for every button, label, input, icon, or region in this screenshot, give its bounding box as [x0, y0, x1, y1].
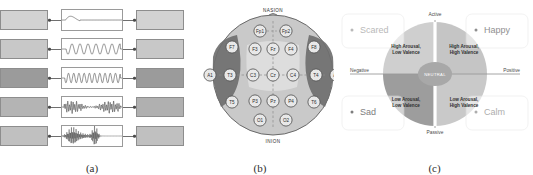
axis-label-bottom: Passive — [427, 130, 444, 135]
connector-right — [123, 97, 136, 117]
electrode-label: C4 — [290, 73, 296, 78]
panel-b-electrode-map: Fp1Fp2F7F3FzF4F8A1T3C3CzC4T4A2T5P3PzP4T6… — [186, 0, 334, 175]
axis-label-top: Active — [428, 12, 441, 17]
electrode-label: Cz — [270, 73, 276, 78]
axis-label-right: Positive — [503, 68, 520, 73]
emotion-bullet — [351, 111, 354, 114]
electrode-label: O2 — [283, 118, 290, 123]
band-label-alpha — [0, 68, 48, 88]
band-row — [0, 95, 184, 119]
electrode-fz[interactable]: Fz — [267, 43, 279, 55]
electrode-label: A1 — [207, 73, 213, 78]
band-label-beta — [0, 97, 48, 117]
electrode-f7[interactable]: F7 — [226, 41, 238, 53]
waveform-beta — [61, 96, 123, 118]
electrode-label: Pz — [270, 99, 276, 104]
inion-label: INION — [266, 139, 281, 144]
waveform-gamma — [61, 125, 123, 147]
electrode-p3[interactable]: P3 — [249, 95, 261, 107]
band-label-gamma — [0, 126, 48, 146]
emotion-label: Sad — [360, 107, 376, 117]
electrode-label: T6 — [311, 100, 317, 105]
quadrant-line: Low Valence — [392, 103, 420, 108]
quadrant-label-top-right: High Arousal,High Valence — [449, 44, 479, 55]
electrode-t6[interactable]: T6 — [308, 96, 320, 108]
head-diagram: Fp1Fp2F7F3FzF4F8A1T3C3CzC4T4A2T5P3PzP4T6… — [186, 2, 334, 152]
state-label-light-sleep — [136, 39, 184, 59]
electrode-f3[interactable]: F3 — [249, 43, 261, 55]
electrode-fp1[interactable]: Fp1 — [254, 25, 266, 37]
panel-c-caption: (c) — [336, 162, 533, 174]
emotion-label: Calm — [484, 107, 505, 117]
quadrant-label-top-left: High Arousal,Low Valence — [391, 44, 421, 55]
electrode-label: P4 — [288, 99, 294, 104]
electrode-c4[interactable]: C4 — [287, 69, 299, 81]
electrode-label: F4 — [288, 47, 294, 52]
waveform-delta — [61, 9, 123, 31]
figure-root: (a) Fp1Fp2F7F3FzF4F8A1T3C3CzC4T4A2T5P3Pz… — [0, 0, 533, 175]
emotion-bullet — [351, 29, 354, 32]
connector-right — [123, 126, 136, 146]
band-label-theta — [0, 39, 48, 59]
electrode-t5[interactable]: T5 — [226, 96, 238, 108]
electrode-label: F8 — [311, 45, 317, 50]
electrode-label: Fz — [270, 47, 276, 52]
electrode-a1[interactable]: A1 — [204, 69, 216, 81]
electrode-label: Fp2 — [282, 29, 290, 34]
electrode-label: F7 — [229, 45, 235, 50]
connector-right — [123, 68, 136, 88]
band-row — [0, 66, 184, 90]
connector-left — [48, 126, 61, 146]
state-label-relaxed — [136, 68, 184, 88]
connector-left — [48, 10, 61, 30]
nasion-label: NASION — [263, 8, 283, 13]
band-row — [0, 37, 184, 61]
quadrant-line: High Valence — [450, 103, 479, 108]
electrode-label: C3 — [250, 73, 256, 78]
band-row — [0, 124, 184, 148]
electrode-label: P3 — [252, 99, 258, 104]
electrode-p4[interactable]: P4 — [285, 95, 297, 107]
panel-a-eeg-bands: (a) — [0, 0, 184, 175]
electrode-o2[interactable]: O2 — [280, 114, 292, 126]
emotion-label: Scared — [360, 25, 389, 35]
electrode-t4[interactable]: T4 — [310, 69, 322, 81]
electrode-f8[interactable]: F8 — [308, 41, 320, 53]
connector-left — [48, 39, 61, 59]
electrode-fp2[interactable]: Fp2 — [280, 25, 292, 37]
quadrant-label-bottom-left: Low Arousal,Low Valence — [392, 97, 421, 108]
quadrant-line: Low Arousal, — [450, 97, 479, 102]
emotion-label: Happy — [484, 25, 511, 35]
electrode-o1[interactable]: O1 — [254, 114, 266, 126]
electrode-f4[interactable]: F4 — [285, 43, 297, 55]
emotion-bullet — [475, 29, 478, 32]
panel-a-caption: (a) — [0, 162, 184, 174]
electrode-label: T5 — [229, 100, 235, 105]
quadrant-line: High Arousal, — [391, 44, 421, 49]
electrode-label: T3 — [227, 73, 233, 78]
electrode-pz[interactable]: Pz — [267, 95, 279, 107]
state-label-alert — [136, 97, 184, 117]
electrode-t3[interactable]: T3 — [224, 69, 236, 81]
waveform-alpha — [61, 67, 123, 89]
connector-right — [123, 10, 136, 30]
neutral-label: NEUTRAL — [424, 72, 446, 77]
emotion-bullet — [475, 111, 478, 114]
quadrant-line: Low Valence — [392, 50, 420, 55]
electrode-label: Fp1 — [256, 29, 264, 34]
panel-b-caption: (b) — [186, 162, 334, 174]
band-row — [0, 8, 184, 32]
electrode-label: A2 — [333, 73, 334, 78]
state-label-high-alert — [136, 126, 184, 146]
electrode-label: O1 — [257, 118, 264, 123]
quadrant-label-bottom-right: Low Arousal,High Valence — [450, 97, 479, 108]
electrode-c3[interactable]: C3 — [247, 69, 259, 81]
connector-right — [123, 39, 136, 59]
quadrant-line: High Arousal, — [449, 44, 479, 49]
axis-label-left: Negative — [350, 68, 369, 73]
electrode-label: F3 — [252, 47, 258, 52]
electrode-cz[interactable]: Cz — [267, 69, 279, 81]
quadrant-line: Low Arousal, — [392, 97, 421, 102]
valence-arousal-diagram: NEUTRALHigh Arousal,Low ValenceHigh Arou… — [336, 0, 533, 158]
connector-left — [48, 97, 61, 117]
